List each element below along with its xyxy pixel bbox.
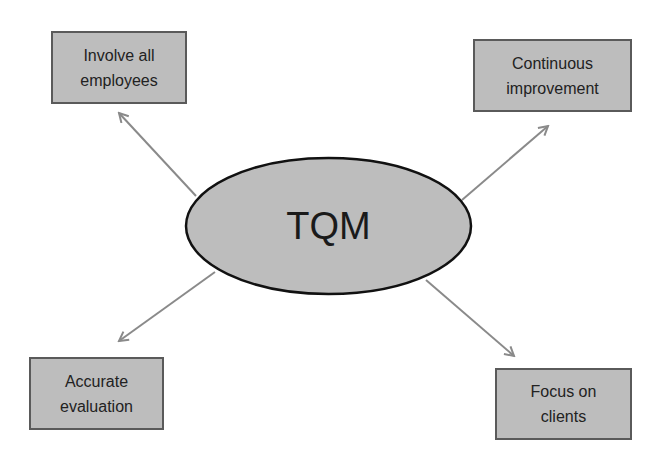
- node-line: Involve all: [80, 43, 157, 68]
- node-involve-all-employees: Involve all employees: [51, 31, 187, 104]
- arrow-to-continuous: [462, 126, 548, 200]
- node-line: Accurate: [60, 369, 133, 394]
- node-line: Focus on: [531, 379, 597, 404]
- node-line: evaluation: [60, 394, 133, 419]
- node-continuous-improvement: Continuous improvement: [473, 39, 632, 112]
- node-line: clients: [531, 404, 597, 429]
- node-line: improvement: [506, 76, 598, 101]
- node-accurate-evaluation: Accurate evaluation: [29, 357, 164, 430]
- node-focus-on-clients: Focus on clients: [495, 368, 632, 440]
- node-line: employees: [80, 68, 157, 93]
- node-line: Continuous: [506, 51, 598, 76]
- tqm-label: TQM: [185, 157, 472, 295]
